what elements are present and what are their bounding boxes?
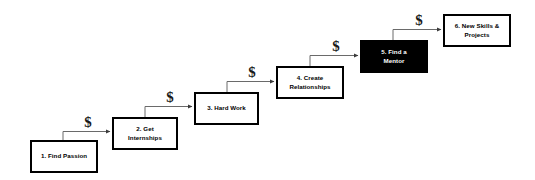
step-box-4-label: 4. Create Relationships: [281, 74, 339, 92]
step-box-5-find-a-mentor[interactable]: 5. Find a Mentor: [360, 40, 428, 73]
step-box-3-label: 3. Hard Work: [199, 104, 254, 113]
step-box-3-hard-work[interactable]: 3. Hard Work: [194, 92, 259, 125]
dollar-marker-1: $: [80, 115, 96, 130]
step-box-4-create-relationships[interactable]: 4. Create Relationships: [276, 66, 344, 99]
step-box-1-find-passion[interactable]: 1. Find Passion: [30, 140, 98, 173]
step-box-2-get-internships[interactable]: 2. Get Internships: [112, 117, 178, 150]
connector-step-3-to-step-4: [227, 82, 274, 93]
dollar-marker-5: $: [411, 13, 427, 28]
step-box-6-new-skills-projects[interactable]: 6. New Skills & Projects: [443, 14, 511, 47]
dollar-marker-2: $: [162, 90, 178, 105]
step-box-1-label: 1. Find Passion: [35, 152, 93, 161]
dollar-marker-4: $: [328, 39, 344, 54]
step-box-2-label: 2. Get Internships: [117, 125, 173, 143]
step-box-5-label: 5. Find a Mentor: [365, 48, 423, 66]
step-box-6-label: 6. New Skills & Projects: [448, 22, 506, 40]
connector-step-1-to-step-2: [63, 132, 110, 141]
staircase-diagram: $ $ $ $ $ 1. Find Passion 2. Get Interns…: [0, 0, 535, 180]
connector-step-4-to-step-5: [310, 56, 358, 67]
dollar-marker-3: $: [244, 65, 260, 80]
connector-step-2-to-step-3: [145, 107, 192, 118]
connector-step-5-to-step-6: [393, 30, 441, 41]
